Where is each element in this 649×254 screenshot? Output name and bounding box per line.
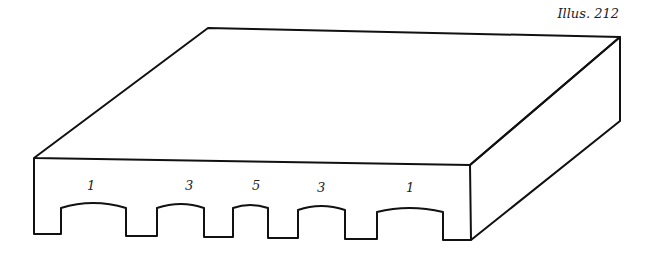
opening-label-2: 3 (185, 178, 193, 193)
right-face (470, 37, 620, 240)
opening-label-5: 1 (406, 180, 414, 195)
opening-label-4: 3 (317, 180, 325, 195)
opening-label-1: 1 (87, 178, 95, 193)
top-face (34, 28, 620, 165)
block-diagram: 1 3 5 3 1 (0, 0, 649, 254)
front-face (34, 158, 471, 240)
opening-label-3: 5 (252, 178, 260, 193)
